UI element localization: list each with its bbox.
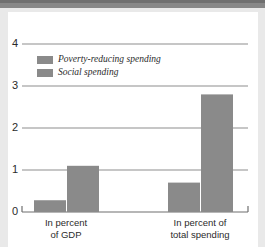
x-group-label-total-line1: In percent of <box>174 217 227 228</box>
top-band-shade <box>0 0 265 3</box>
top-decorative-band <box>0 0 265 8</box>
bar-chart-svg <box>8 12 258 247</box>
bar-social-gdp <box>67 166 99 212</box>
legend-label-poverty-reducing: Poverty-reducing spending <box>58 54 161 65</box>
legend-label-social: Social spending <box>58 67 118 78</box>
y-tick-1: 1 <box>4 163 18 175</box>
y-tick-4: 4 <box>4 37 18 49</box>
x-group-label-total-spending: In percent of total spending <box>155 217 245 241</box>
chart-screenshot: 4 3 2 1 0 Poverty-reducing spending Soci… <box>0 0 265 247</box>
bar-social-total <box>201 94 233 212</box>
x-group-label-gdp-line2: of GDP <box>21 229 111 241</box>
chart-card: 4 3 2 1 0 Poverty-reducing spending Soci… <box>8 12 258 247</box>
legend-swatch-icon <box>37 69 53 77</box>
y-tick-0: 0 <box>4 205 18 217</box>
bar-poverty-gdp <box>34 200 66 212</box>
legend-item-poverty-reducing: Poverty-reducing spending <box>37 54 161 65</box>
bar-poverty-total <box>168 183 200 212</box>
x-group-label-gdp-line1: In percent <box>45 217 87 228</box>
legend-item-social: Social spending <box>37 67 161 78</box>
plot-area: 4 3 2 1 0 Poverty-reducing spending Soci… <box>8 12 258 247</box>
y-tick-2: 2 <box>4 121 18 133</box>
x-group-label-gdp: In percent of GDP <box>21 217 111 241</box>
y-tick-3: 3 <box>4 79 18 91</box>
legend: Poverty-reducing spending Social spendin… <box>37 54 161 78</box>
x-group-label-total-line2: total spending <box>155 229 245 241</box>
legend-swatch-icon <box>37 56 53 64</box>
